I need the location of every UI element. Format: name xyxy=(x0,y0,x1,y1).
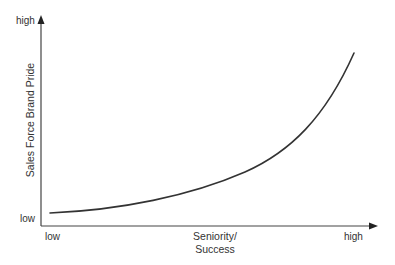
curve-line xyxy=(50,53,354,213)
x-tick-high: high xyxy=(344,231,363,242)
y-axis-title: Sales Force Brand Pride xyxy=(24,56,36,184)
y-tick-high: high xyxy=(16,15,35,26)
x-axis-title: Seniority/ Success xyxy=(175,230,255,256)
y-axis-arrow-icon xyxy=(38,15,45,24)
x-axis-title-line-1: Seniority/ xyxy=(175,230,255,243)
x-tick-low: low xyxy=(45,231,60,242)
x-axis-title-line-2: Success xyxy=(175,243,255,256)
chart-canvas xyxy=(0,0,395,265)
y-tick-low: low xyxy=(20,213,35,224)
x-axis-arrow-icon xyxy=(369,223,378,230)
